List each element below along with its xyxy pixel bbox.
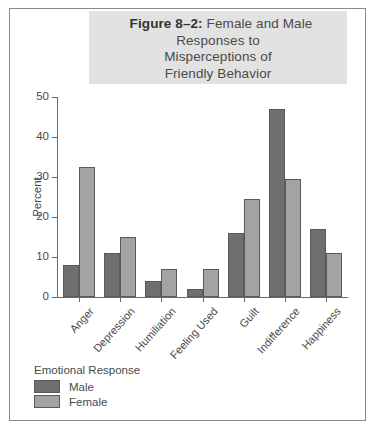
bar-female-indifference	[285, 179, 301, 297]
bar-chart-plot-area: Percent 01020304050 AngerDepressionHumil…	[57, 97, 347, 297]
bar-female-depression	[120, 237, 136, 297]
bar-female-anger	[79, 167, 95, 297]
y-tick	[52, 137, 57, 138]
x-axis-label-anger: Anger	[67, 305, 96, 335]
figure-title-text-1: Female and Male	[207, 16, 313, 31]
bar-female-humiliation	[161, 269, 177, 297]
x-axis-label-indifference: Indifference	[255, 305, 302, 356]
bar-male-guilt	[228, 233, 244, 297]
y-tick	[52, 177, 57, 178]
figure-title-line-1: Figure 8–2: Female and Male	[89, 16, 347, 33]
bar-male-happiness	[310, 229, 326, 297]
y-tick-label: 40	[36, 130, 49, 142]
bar-male-depression	[104, 253, 120, 297]
legend-item-female: Female	[34, 395, 140, 408]
y-tick-label: 20	[36, 210, 49, 222]
bar-male-feeling-used	[187, 289, 203, 297]
y-tick-label: 10	[36, 250, 49, 262]
bar-female-guilt	[244, 199, 260, 297]
legend-item-male: Male	[34, 380, 140, 393]
figure-title-line-3: Misperceptions of	[89, 49, 347, 66]
y-tick	[52, 97, 57, 98]
bar-male-anger	[63, 265, 79, 297]
x-tick	[285, 297, 286, 302]
x-axis-label-depression: Depression	[91, 305, 137, 354]
x-tick	[79, 297, 80, 302]
x-tick	[161, 297, 162, 302]
y-tick-label: 0	[43, 290, 49, 302]
legend-swatch-male-icon	[34, 380, 60, 393]
x-axis-label-guilt: Guilt	[237, 305, 261, 330]
chart-legend: Emotional Response Male Female	[34, 364, 140, 410]
y-tick	[52, 297, 57, 298]
y-tick	[52, 257, 57, 258]
x-tick	[120, 297, 121, 302]
legend-swatch-female-icon	[34, 395, 60, 408]
x-axis-label-humiliation: Humiliation	[133, 305, 178, 353]
x-tick	[244, 297, 245, 302]
legend-label-male: Male	[69, 381, 94, 393]
bar-male-indifference	[269, 109, 285, 297]
y-tick-label: 50	[36, 90, 49, 102]
y-tick-label: 30	[36, 170, 49, 182]
legend-title: Emotional Response	[34, 364, 140, 376]
bar-group-container	[58, 97, 347, 297]
bar-female-happiness	[326, 253, 342, 297]
legend-label-female: Female	[69, 396, 107, 408]
bar-male-humiliation	[145, 281, 161, 297]
y-tick	[52, 217, 57, 218]
x-axis-label-happiness: Happiness	[300, 305, 344, 352]
figure-frame: Figure 8–2: Female and Male Responses to…	[9, 8, 366, 421]
x-tick	[203, 297, 204, 302]
figure-title-line-2: Responses to	[89, 33, 347, 50]
figure-title-line-4: Friendly Behavior	[89, 66, 347, 83]
bar-female-feeling-used	[203, 269, 219, 297]
figure-title-box: Figure 8–2: Female and Male Responses to…	[89, 11, 347, 84]
x-tick	[326, 297, 327, 302]
figure-number-label: Figure 8–2:	[130, 16, 203, 31]
